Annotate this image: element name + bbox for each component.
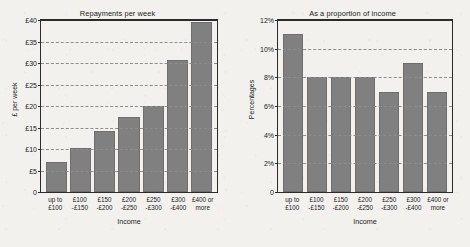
y-tick-mark-right-0	[275, 192, 278, 193]
chart-panel-repayments: Repayments per week £ per week 0£5£10£15…	[0, 0, 235, 247]
y-tick-mark-left-25	[38, 85, 41, 86]
y-tick-label-right-6: 6%	[264, 103, 274, 110]
y-axis-label-right: Percentages	[248, 70, 255, 130]
x-tick-label: £400 ormore	[191, 196, 215, 211]
x-tick-label: £200-£250	[353, 196, 376, 211]
gridline-left-40	[41, 20, 217, 21]
gridline-right-2	[278, 163, 452, 164]
x-tick-label: £200-£250	[117, 196, 141, 211]
x-axis-label-left: Income	[40, 217, 218, 226]
y-tick-mark-left-10	[38, 149, 41, 150]
y-tick-mark-right-6	[275, 106, 278, 107]
gridline-left-20	[41, 106, 217, 107]
y-tick-mark-right-10	[275, 49, 278, 50]
plot-area-left: 0£5£10£15£20£25£30£35£40	[40, 19, 218, 193]
x-tick-label: £250-£300	[378, 196, 401, 211]
y-tick-mark-left-0	[38, 192, 41, 193]
x-axis-ticks-right: up to£100£100-£150£150-£200£200-£250£250…	[277, 196, 453, 211]
gridline-right-12	[278, 20, 452, 21]
y-tick-mark-left-30	[38, 63, 41, 64]
y-tick-label-left-35: £35	[25, 38, 37, 45]
x-tick-label: £300-£400	[402, 196, 425, 211]
x-axis-label-right: Income	[277, 217, 453, 226]
gridline-left-5	[41, 171, 217, 172]
y-tick-label-right-2: 2%	[264, 160, 274, 167]
gridline-right-6	[278, 106, 452, 107]
x-axis-ticks-left: up to£100£100-£150£150-£200£200-£250£250…	[40, 196, 218, 211]
gridline-left-30	[41, 63, 217, 64]
bar	[403, 63, 424, 192]
y-tick-label-left-10: £10	[25, 146, 37, 153]
x-tick-label: up to£100	[44, 196, 68, 211]
bar	[94, 131, 115, 192]
x-tick-label: £100-£150	[68, 196, 92, 211]
y-tick-label-right-10: 10%	[260, 45, 274, 52]
y-tick-mark-left-15	[38, 128, 41, 129]
bar	[283, 34, 304, 192]
y-tick-label-left-0: 0	[33, 189, 37, 196]
y-tick-mark-left-5	[38, 171, 41, 172]
y-axis-label-left: £ per week	[11, 70, 18, 130]
x-tick-label: up to£100	[281, 196, 304, 211]
gridline-right-10	[278, 49, 452, 50]
y-tick-label-left-40: £40	[25, 17, 37, 24]
x-tick-label: £100-£150	[305, 196, 328, 211]
gridline-left-15	[41, 128, 217, 129]
y-tick-label-left-20: £20	[25, 103, 37, 110]
y-tick-label-left-25: £25	[25, 81, 37, 88]
gridline-left-35	[41, 42, 217, 43]
gridline-left-25	[41, 85, 217, 86]
x-tick-label: £150-£200	[329, 196, 352, 211]
y-tick-label-left-15: £15	[25, 124, 37, 131]
gridline-right-8	[278, 77, 452, 78]
bar	[167, 60, 188, 192]
x-tick-label: £300-£400	[166, 196, 190, 211]
y-tick-mark-left-20	[38, 106, 41, 107]
y-tick-mark-right-8	[275, 77, 278, 78]
x-tick-label: £250-£300	[142, 196, 166, 211]
y-tick-label-right-4: 4%	[264, 131, 274, 138]
gridline-left-10	[41, 149, 217, 150]
y-tick-mark-left-35	[38, 42, 41, 43]
bar	[46, 162, 67, 192]
y-tick-label-right-0: 0	[270, 189, 274, 196]
y-tick-label-left-5: £5	[29, 167, 37, 174]
figure-sheet: Repayments per week £ per week 0£5£10£15…	[0, 0, 470, 247]
y-tick-mark-left-40	[38, 20, 41, 21]
y-tick-label-left-30: £30	[25, 60, 37, 67]
y-tick-mark-right-2	[275, 163, 278, 164]
x-tick-label: £400 ormore	[426, 196, 449, 211]
gridline-right-4	[278, 135, 452, 136]
y-tick-mark-right-12	[275, 20, 278, 21]
plot-area-right: 02%4%6%8%10%12%	[277, 19, 453, 193]
y-tick-label-right-8: 8%	[264, 74, 274, 81]
y-tick-mark-right-4	[275, 135, 278, 136]
y-tick-label-right-12: 12%	[260, 17, 274, 24]
chart-panel-proportion: As a proportion of income Percentages 02…	[235, 0, 470, 247]
x-tick-label: £150-£200	[93, 196, 117, 211]
